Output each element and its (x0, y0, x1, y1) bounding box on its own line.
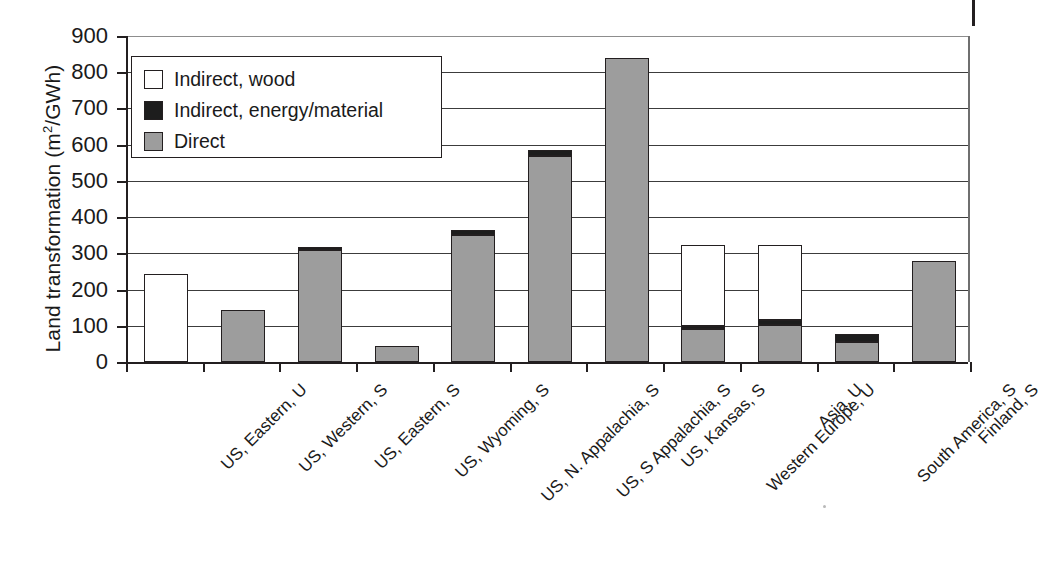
bar-segment-direct (221, 310, 265, 362)
bar-segment-energy (835, 334, 879, 342)
x-axis-label: US, N. Appalachia, S (538, 380, 664, 506)
y-axis-label: 0 (12, 351, 108, 373)
x-axis-tick (510, 362, 512, 372)
bar-segment-direct (681, 329, 725, 362)
bar-us-n-appalachia-s[interactable] (451, 230, 495, 362)
y-axis-label: 500 (12, 170, 108, 192)
bar-segment-direct (528, 156, 572, 362)
x-axis-tick (356, 362, 358, 372)
gridline (128, 362, 968, 364)
bar-segment-direct (758, 325, 802, 362)
y-axis-title-exponent: 2 (40, 126, 55, 133)
legend-item[interactable]: Indirect, energy/material (144, 95, 441, 126)
x-axis-tick (279, 362, 281, 372)
bar-south-america-s[interactable] (835, 334, 879, 362)
bar-segment-direct (298, 250, 342, 362)
x-axis-tick (586, 362, 588, 372)
x-axis-tick (663, 362, 665, 372)
x-axis-tick (203, 362, 205, 372)
bar-segment-direct (912, 261, 956, 362)
x-axis-tick (893, 362, 895, 372)
gridline (128, 36, 968, 37)
bar-us-kansas-s[interactable] (605, 58, 649, 362)
bar-segment-direct (451, 235, 495, 362)
scan-artifact-dot (823, 505, 826, 508)
y-axis-label: 700 (12, 97, 108, 119)
bar-us-eastern-u[interactable] (144, 274, 188, 362)
legend-item[interactable]: Direct (144, 126, 441, 157)
bar-western-europe-u[interactable] (681, 245, 725, 362)
bar-segment-direct (375, 346, 419, 362)
y-axis-label: 600 (12, 134, 108, 156)
bar-segment-direct (835, 342, 879, 362)
x-axis-tick (817, 362, 819, 372)
x-axis-tick (433, 362, 435, 372)
bar-segment-energy (681, 326, 725, 330)
bar-finland-s[interactable] (912, 261, 956, 362)
bar-segment-energy (758, 320, 802, 325)
x-axis-tick (126, 362, 128, 372)
legend-swatch-energy (144, 101, 163, 120)
y-axis-label: 300 (12, 242, 108, 264)
legend-label: Indirect, wood (174, 70, 295, 90)
bar-segment-energy (298, 247, 342, 250)
legend-swatch-wood (144, 70, 163, 89)
bar-segment-wood (758, 245, 802, 320)
bar-segment-wood (144, 274, 188, 362)
bar-segment-wood (681, 245, 725, 326)
scan-artifact-mark (972, 0, 975, 26)
legend-swatch-direct (144, 132, 163, 151)
bar-us-wyoming-s[interactable] (375, 346, 419, 362)
y-axis-label: 400 (12, 206, 108, 228)
legend-label: Direct (174, 132, 225, 152)
bar-asia-u[interactable] (758, 245, 802, 362)
bar-segment-energy (528, 150, 572, 155)
bar-segment-energy (451, 230, 495, 235)
y-axis-label: 900 (12, 25, 108, 47)
legend-label: Indirect, energy/material (174, 101, 383, 121)
y-axis-label: 100 (12, 315, 108, 337)
chart-legend: Indirect, woodIndirect, energy/materialD… (131, 56, 442, 158)
bar-us-eastern-s[interactable] (298, 247, 342, 362)
bar-us-s-appalachia-s[interactable] (528, 150, 572, 362)
bar-segment-direct (605, 58, 649, 362)
y-axis-label: 200 (12, 279, 108, 301)
legend-item[interactable]: Indirect, wood (144, 64, 441, 95)
x-axis-label: South America, S (913, 380, 1020, 487)
x-axis-label: US, Wyoming, S (451, 380, 553, 482)
y-axis-label: 800 (12, 61, 108, 83)
bar-us-western-s[interactable] (221, 310, 265, 362)
x-axis-tick (970, 362, 972, 372)
x-axis-tick (740, 362, 742, 372)
